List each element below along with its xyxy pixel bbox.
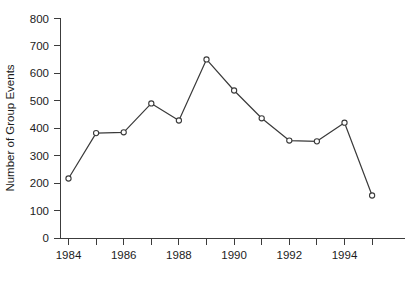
line-chart-canvas: Number of Group Events 800 700 600 500 4…	[0, 0, 415, 286]
data-point-1989	[204, 57, 209, 62]
y-tick-label-400: 400	[30, 122, 49, 134]
x-tick-label-1994: 1994	[332, 249, 358, 261]
x-tick-label-1988: 1988	[166, 249, 192, 261]
data-point-1987	[149, 101, 154, 106]
y-axis-ticks: 800 700 600 500 400 300 200 100 0	[30, 13, 61, 245]
y-tick-label-800: 800	[30, 13, 49, 25]
data-point-1992	[287, 138, 292, 143]
data-series-markers	[66, 57, 375, 198]
data-series-line	[69, 59, 373, 195]
y-tick-label-600: 600	[30, 67, 49, 79]
data-point-1990	[232, 88, 237, 93]
data-point-1994	[342, 120, 347, 125]
y-axis-label: Number of Group Events	[4, 64, 16, 191]
data-point-1986	[121, 130, 126, 135]
data-point-1985	[94, 131, 99, 136]
y-tick-label-200: 200	[30, 177, 49, 189]
y-tick-label-0: 0	[43, 232, 49, 244]
y-tick-label-500: 500	[30, 95, 49, 107]
data-point-1988	[176, 118, 181, 123]
y-tick-label-100: 100	[30, 205, 49, 217]
x-tick-label-1992: 1992	[277, 249, 303, 261]
y-tick-label-700: 700	[30, 40, 49, 52]
chart-figure: Number of Group Events 800 700 600 500 4…	[0, 0, 415, 286]
y-tick-label-300: 300	[30, 150, 49, 162]
x-tick-label-1986: 1986	[111, 249, 137, 261]
x-axis-ticks	[69, 239, 373, 246]
x-tick-label-1984: 1984	[56, 249, 82, 261]
data-point-1993	[314, 139, 319, 144]
data-point-1995	[370, 193, 375, 198]
x-tick-label-1990: 1990	[221, 249, 247, 261]
x-axis-tick-labels: 1984 1986 1988 1990 1992 1994	[56, 249, 358, 261]
data-point-1984	[66, 176, 71, 181]
data-point-1991	[259, 116, 264, 121]
